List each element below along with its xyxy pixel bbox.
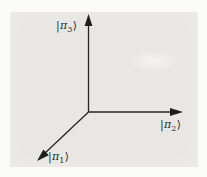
- figure-page: { "diagram": { "description": "Three-dim…: [0, 0, 207, 177]
- ket-close-bracket: ⟩: [65, 150, 70, 163]
- axis-label-pi1: |π1⟩: [48, 150, 69, 167]
- axis-pi1-line: [44, 112, 89, 154]
- axis-pi3-arrowhead: [85, 14, 93, 26]
- coordinate-axes: [10, 12, 198, 167]
- figure-panel: |π3⟩ |π2⟩ |π1⟩: [10, 12, 198, 167]
- axis-label-pi2: |π2⟩: [160, 118, 181, 135]
- axis-pi2-arrowhead: [170, 108, 183, 116]
- axis-label-pi3: |π3⟩: [56, 19, 77, 36]
- ket-close-bracket: ⟩: [177, 118, 182, 131]
- ket-close-bracket: ⟩: [73, 19, 78, 32]
